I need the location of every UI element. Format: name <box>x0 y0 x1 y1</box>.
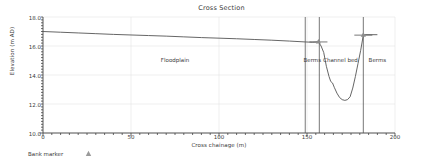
annotation-berms-right: Berms <box>337 57 417 63</box>
y-tick-label: 14.0 <box>15 73 41 79</box>
y-tick-label: 12.0 <box>15 102 41 108</box>
chart-legend: Bank marker <box>28 150 92 157</box>
x-tick-label: 200 <box>380 134 410 140</box>
x-tick-label: 50 <box>116 134 146 140</box>
legend-label: Bank marker <box>28 151 63 157</box>
annotation-floodplain: Floodplain <box>135 57 215 63</box>
x-tick-label: 0 <box>28 134 58 140</box>
bank-marker-triangle <box>316 39 321 44</box>
y-tick-label: 18.0 <box>15 15 41 21</box>
x-axis-label: Cross chainage (m) <box>43 142 395 148</box>
triangle-marker <box>85 150 92 157</box>
chart-title: Cross Section <box>0 4 443 12</box>
x-tick-label: 150 <box>292 134 322 140</box>
y-tick-label: 16.0 <box>15 44 41 50</box>
x-tick-label: 100 <box>204 134 234 140</box>
cross-section-chart: Cross Section Elevation (m AD) Cross cha… <box>0 0 443 163</box>
